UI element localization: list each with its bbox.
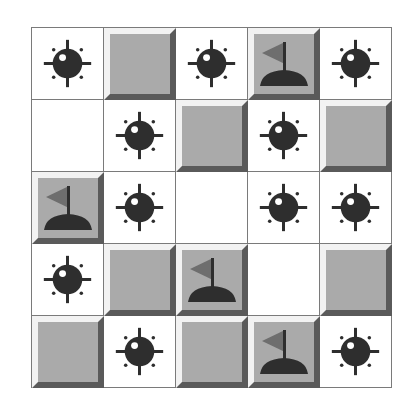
cell-r4-c0-covered[interactable] (32, 316, 104, 388)
minesweeper-board (31, 27, 392, 388)
mine-icon (104, 316, 175, 387)
cell-r2-c2-empty[interactable] (176, 172, 248, 244)
mine-icon (32, 28, 103, 99)
flag-icon (254, 34, 314, 94)
cell-r4-c3-flag[interactable] (248, 316, 320, 388)
cell-r0-c1-covered[interactable] (104, 28, 176, 100)
cell-r3-c3-empty[interactable] (248, 244, 320, 316)
cell-r2-c3-mine[interactable] (248, 172, 320, 244)
flag-icon (38, 178, 98, 238)
cell-r1-c0-empty[interactable] (32, 100, 104, 172)
cell-r2-c0-flag[interactable] (32, 172, 104, 244)
cell-r1-c4-covered[interactable] (320, 100, 392, 172)
cell-r1-c2-covered[interactable] (176, 100, 248, 172)
cell-r0-c3-flag[interactable] (248, 28, 320, 100)
mine-icon (104, 172, 175, 243)
cell-r2-c1-mine[interactable] (104, 172, 176, 244)
cell-r3-c1-covered[interactable] (104, 244, 176, 316)
cell-r1-c1-mine[interactable] (104, 100, 176, 172)
mine-icon (104, 100, 175, 171)
cell-r3-c0-mine[interactable] (32, 244, 104, 316)
mine-icon (320, 316, 391, 387)
flag-icon (254, 322, 314, 382)
cell-r4-c4-mine[interactable] (320, 316, 392, 388)
cell-r2-c4-mine[interactable] (320, 172, 392, 244)
cell-r3-c2-flag[interactable] (176, 244, 248, 316)
cell-r0-c4-mine[interactable] (320, 28, 392, 100)
cell-r4-c1-mine[interactable] (104, 316, 176, 388)
mine-icon (176, 28, 247, 99)
mine-icon (248, 172, 319, 243)
cell-r0-c0-mine[interactable] (32, 28, 104, 100)
mine-icon (320, 172, 391, 243)
flag-icon (182, 250, 242, 310)
mine-icon (320, 28, 391, 99)
cell-r3-c4-covered[interactable] (320, 244, 392, 316)
cell-r4-c2-covered[interactable] (176, 316, 248, 388)
mine-icon (32, 244, 103, 315)
cell-r1-c3-mine[interactable] (248, 100, 320, 172)
mine-icon (248, 100, 319, 171)
cell-r0-c2-mine[interactable] (176, 28, 248, 100)
